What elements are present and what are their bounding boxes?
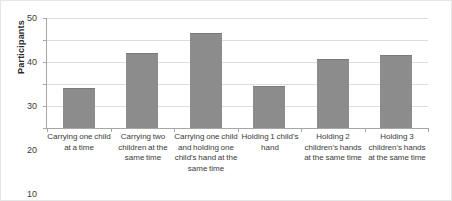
bar <box>253 86 285 128</box>
plot-area: 01020304050 <box>47 18 428 128</box>
x-axis-category-label: Holding 1 child's hand <box>238 132 302 153</box>
x-axis-category-labels: Carrying one child at a timeCarrying two… <box>47 132 428 196</box>
gridline <box>47 106 428 107</box>
y-tick-label: 10 <box>27 189 37 199</box>
y-tick-label: 40 <box>27 57 37 67</box>
y-axis-line <box>46 18 47 129</box>
x-axis-category-label: Carrying one child at a time <box>47 132 111 153</box>
gridline <box>47 84 428 85</box>
gridline <box>47 62 428 63</box>
gridline <box>47 40 428 41</box>
x-axis-category-label: Carrying one child and holding one child… <box>174 132 238 174</box>
gridline <box>47 18 428 19</box>
bar <box>63 88 95 128</box>
y-tick-label: 50 <box>27 13 37 23</box>
bar-chart: Participants 01020304050 Carrying one ch… <box>0 0 452 201</box>
bar <box>126 53 158 128</box>
bar <box>380 55 412 128</box>
x-axis-category-label: Carrying two children at the same time <box>111 132 175 164</box>
x-axis-line <box>46 128 428 129</box>
x-axis-category-label: Holding 2 children's hands at the same t… <box>301 132 365 164</box>
y-tick-label: 30 <box>27 101 37 111</box>
bar <box>317 59 349 128</box>
bar <box>190 33 222 128</box>
x-axis-category-label: Holding 3 children's hands at the same t… <box>365 132 429 164</box>
y-tick-label: 20 <box>27 145 37 155</box>
y-axis-title: Participants <box>16 0 26 102</box>
